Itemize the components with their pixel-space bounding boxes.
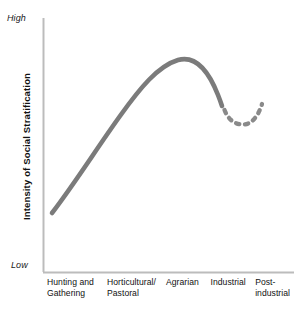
x-tick-label-line1: Agrarian	[166, 277, 199, 287]
x-tick-label-line1: Horticultural/	[107, 277, 156, 287]
x-tick-label-line2: industrial	[255, 288, 295, 299]
chart-plot-area	[0, 0, 297, 315]
x-tick-label-horticultural-pastoral: Horticultural/ Pastoral	[105, 277, 165, 299]
social-stratification-chart: High Low Intensity of Social Stratificat…	[0, 0, 297, 315]
y-axis-title: Intensity of Social Stratification	[21, 47, 32, 247]
x-tick-label-agrarian: Agrarian	[165, 277, 209, 288]
x-tick-label-line1: Industrial	[210, 277, 245, 287]
trend-curve-dashed	[225, 104, 263, 125]
y-axis-low-label: Low	[11, 260, 28, 270]
x-tick-label-line2: Pastoral	[107, 288, 165, 299]
x-tick-label-line2: Gathering	[47, 288, 105, 299]
trend-curve-solid	[52, 59, 222, 213]
y-axis-high-label: High	[7, 13, 26, 23]
x-tick-label-post-industrial: Post- industrial	[252, 277, 295, 299]
x-tick-label-industrial: Industrial	[209, 277, 252, 288]
x-tick-label-hunting-and-gathering: Hunting and Gathering	[43, 277, 105, 299]
x-axis-tick-labels: Hunting and Gathering Horticultural/ Pas…	[43, 277, 295, 299]
x-tick-label-line1: Post-	[255, 277, 275, 287]
x-tick-label-line1: Hunting and	[47, 277, 94, 287]
